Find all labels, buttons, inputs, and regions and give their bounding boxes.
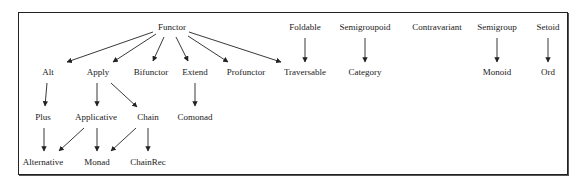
node-alternative: Alternative [23, 158, 63, 167]
node-apply: Apply [87, 68, 110, 77]
edge-apply-to-chain [111, 83, 137, 107]
node-foldable: Foldable [289, 23, 321, 32]
node-monoid: Monoid [483, 68, 512, 77]
edge-functor-to-traversable [189, 32, 281, 62]
node-plus: Plus [35, 113, 51, 122]
edge-functor-to-bifunctor [153, 37, 164, 61]
node-monad: Monad [84, 158, 110, 167]
node-alt: Alt [42, 68, 54, 77]
node-applicative: Applicative [75, 113, 117, 122]
node-setoid: Setoid [536, 23, 559, 32]
node-ord: Ord [541, 68, 555, 77]
node-traversable: Traversable [284, 68, 326, 77]
edge-functor-to-alt [67, 32, 153, 62]
edge-applicative-to-alternative [59, 128, 84, 151]
node-chainrec: ChainRec [130, 158, 166, 167]
edge-functor-to-extend [176, 37, 188, 61]
node-chain: Chain [137, 113, 159, 122]
node-comonad: Comonad [178, 113, 213, 122]
edge-alt-to-plus [45, 83, 47, 106]
node-contravariant: Contravariant [412, 23, 461, 32]
node-profunctor: Profunctor [227, 68, 266, 77]
node-bifunctor: Bifunctor [134, 68, 169, 77]
node-semigroupoid: Semigroupoid [340, 23, 391, 32]
node-category: Category [349, 68, 382, 77]
node-functor: Functor [158, 23, 186, 32]
node-extend: Extend [182, 68, 208, 77]
edge-functor-to-profunctor [188, 36, 228, 62]
edge-chain-to-monad [111, 128, 136, 151]
node-semigroup: Semigroup [477, 23, 517, 32]
